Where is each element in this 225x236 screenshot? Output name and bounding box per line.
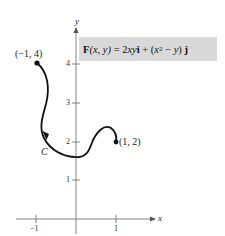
formula-equals: = 2 bbox=[111, 44, 127, 55]
curve-label: C bbox=[41, 147, 48, 157]
formula-minus: − bbox=[163, 44, 174, 55]
formula-plus: + ( bbox=[140, 44, 155, 55]
start-point bbox=[34, 60, 39, 65]
y-tick-label-2: 2 bbox=[66, 138, 70, 146]
x-axis-label: x bbox=[158, 214, 162, 223]
formula-xy: xy bbox=[127, 44, 136, 55]
y-tick-label-1: 1 bbox=[66, 176, 70, 184]
y-tick-label-3: 3 bbox=[66, 99, 70, 107]
x-tick-label-neg1: −1 bbox=[30, 225, 39, 233]
end-point-label: (1, 2) bbox=[119, 137, 141, 147]
curve-c bbox=[37, 63, 116, 157]
end-point bbox=[114, 140, 119, 145]
y-tick-label-4: 4 bbox=[66, 60, 70, 68]
y-axis-label: y bbox=[75, 17, 79, 26]
formula-j: j bbox=[184, 44, 188, 55]
vector-field-formula: F (x, y) = 2 xy i + ( x 2 − y ) j bbox=[79, 37, 217, 61]
coordinate-plot bbox=[0, 0, 225, 236]
x-tick-label-1: 1 bbox=[114, 225, 118, 233]
formula-args: (x, y) bbox=[89, 44, 111, 55]
start-point-label: (−1, 4) bbox=[15, 49, 42, 59]
